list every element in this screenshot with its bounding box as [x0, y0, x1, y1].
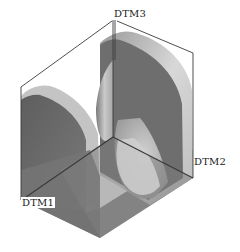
datum-label-dtm1[interactable]: DTM1 — [21, 197, 55, 208]
part-model — [0, 0, 240, 252]
datum-label-dtm3[interactable]: DTM3 — [114, 8, 146, 19]
cad-viewport[interactable]: DTM3 DTM2 DTM1 — [0, 0, 240, 252]
datum-label-dtm2[interactable]: DTM2 — [194, 156, 226, 167]
